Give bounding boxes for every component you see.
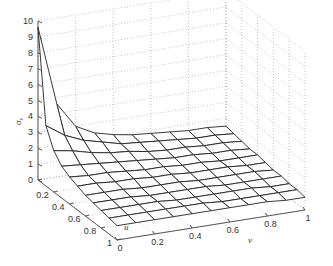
- mesh-cell: [38, 27, 65, 135]
- u-tick-label: 0.2: [36, 190, 49, 200]
- v-tick-label: 0.2: [151, 237, 164, 247]
- z-tick-label: 3: [28, 127, 33, 137]
- z-tick-label: 2: [28, 143, 33, 153]
- v-tick-label: 0.8: [264, 219, 277, 229]
- z-tick-label: 9: [28, 32, 33, 42]
- z-tick-label: 1: [28, 159, 33, 169]
- z-tick-label: 4: [28, 111, 33, 121]
- v-tick-label: 0.6: [227, 225, 240, 235]
- surface-plot: 0123456789100.20.40.60.8100.20.40.60.81 …: [0, 0, 333, 266]
- z-tick-label: 6: [28, 80, 33, 90]
- z-tick-label: 10: [23, 16, 33, 26]
- u-tick-label: 0.6: [68, 214, 81, 224]
- v-tick-label: 1: [305, 213, 310, 223]
- z-axis-label: σs: [13, 118, 24, 125]
- u-tick-label: 0.4: [52, 202, 65, 212]
- surface-mesh: [38, 27, 305, 225]
- z-tick-label: 7: [28, 64, 33, 74]
- v-tick-label: 0: [117, 243, 122, 253]
- u-tick-label: 0.8: [84, 226, 97, 236]
- u-tick-label: 1: [107, 238, 112, 248]
- z-tick-label: 8: [28, 48, 33, 58]
- u-axis-label: u: [124, 222, 129, 232]
- z-tick-label: 5: [28, 96, 33, 106]
- z-tick-label: 0: [28, 175, 33, 185]
- v-tick-label: 0.4: [189, 231, 202, 241]
- v-axis-label: v: [248, 235, 252, 245]
